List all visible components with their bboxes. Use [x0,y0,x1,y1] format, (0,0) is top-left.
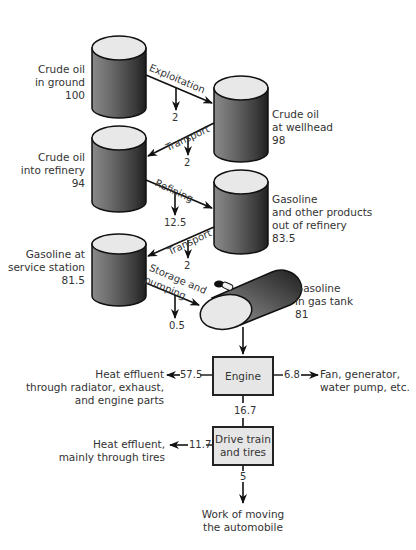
cylinder-gasoline-out-of-refinery [214,170,268,254]
label-engine-accessories: Fan, generator, water pump, etc. [320,368,410,394]
cylinder-service-station [92,234,146,306]
label-line: Crude oil [35,63,85,76]
loss-refining: 12.5 [164,217,186,228]
label-line: Heat effluent, [59,438,165,451]
label-line: water pump, etc. [320,381,410,394]
label-line: in ground [35,76,85,89]
label-line: Crude oil [272,108,333,121]
label-gas-tank: Gasoline in gas tank 81 [295,282,353,321]
stage-value: 83.5 [272,232,372,245]
label-line: Work of moving [183,508,303,521]
engine-label: Engine [225,370,261,383]
drive-train-output: 5 [240,471,246,482]
label-line: Gasoline [295,282,353,295]
label-line: at wellhead [272,121,333,134]
engine-accessory-loss: 6.8 [284,369,300,380]
label-line: into refinery [21,164,85,177]
gas-tank-shape [197,270,301,333]
label-line: service station [8,261,85,274]
label-line: the automobile [183,521,303,534]
label-gasoline-out-of-refinery: Gasoline and other products out of refin… [272,193,372,245]
loss-transport-1: 2 [184,157,190,168]
cylinder-crude-into-refinery [92,126,146,212]
drive-train-label-line: Drive train [215,433,271,446]
label-service-station: Gasoline at service station 81.5 [8,248,85,287]
loss-transport-2: 2 [184,260,190,271]
label-line: out of refinery [272,219,372,232]
engine-heat-loss: 57.5 [180,369,202,380]
stage-value: 81 [295,308,353,321]
label-line: mainly through tires [59,451,165,464]
drive-train-heat-loss: 11.7 [189,439,211,450]
cylinder-crude-wellhead [214,76,268,162]
label-line: and other products [272,206,372,219]
loss-exploitation: 2 [172,112,178,123]
label-line: through radiator, exhaust, [26,381,164,394]
engine-box: Engine [212,356,274,396]
label-work-moving-automobile: Work of moving the automobile [183,508,303,534]
engine-output: 16.7 [234,405,256,416]
label-line: in gas tank [295,295,353,308]
stage-value: 100 [35,89,85,102]
label-crude-in-ground: Crude oil in ground 100 [35,63,85,102]
loss-storage-pumping: 0.5 [169,320,185,331]
label-line: Gasoline [272,193,372,206]
stage-value: 98 [272,134,333,147]
stage-value: 81.5 [8,274,85,287]
label-drive-train-heat-effluent: Heat effluent, mainly through tires [59,438,165,464]
drive-train-box: Drive train and tires [212,426,274,466]
stage-value: 94 [21,177,85,190]
label-line: and engine parts [26,394,164,407]
label-crude-wellhead: Crude oil at wellhead 98 [272,108,333,147]
label-line: Fan, generator, [320,368,410,381]
label-line: Heat effluent [26,368,164,381]
label-engine-heat-effluent: Heat effluent through radiator, exhaust,… [26,368,164,407]
label-line: Gasoline at [8,248,85,261]
cylinder-crude-in-ground [92,36,146,118]
label-line: Crude oil [21,151,85,164]
drive-train-label-line: and tires [215,446,271,459]
label-crude-into-refinery: Crude oil into refinery 94 [21,151,85,190]
